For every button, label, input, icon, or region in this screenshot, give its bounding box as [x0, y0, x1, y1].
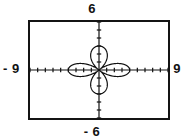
calculator-graph-figure: 6 - 9 9 - 6: [0, 0, 184, 140]
xmax-label: 9: [173, 62, 181, 75]
polar-rose-plot: [30, 22, 168, 118]
ymax-label: 6: [0, 2, 184, 15]
calculator-screen-frame: [28, 20, 170, 120]
xmin-label: - 9: [3, 62, 20, 75]
ymin-label: - 6: [0, 125, 184, 138]
